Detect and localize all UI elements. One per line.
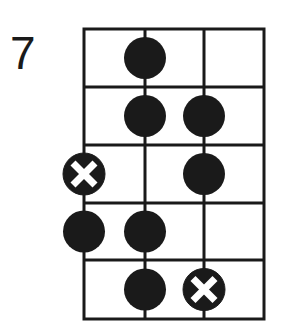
note-dot [124,211,166,253]
note-dot [124,95,166,137]
note-dot [124,37,166,79]
note-dot [124,269,166,311]
note-dot [183,153,225,195]
fretboard-diagram [0,0,287,329]
note-dot [63,211,105,253]
note-dot [183,95,225,137]
fretboard-frame [84,29,264,319]
